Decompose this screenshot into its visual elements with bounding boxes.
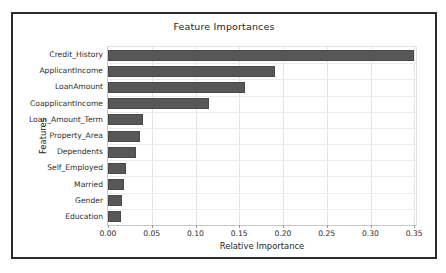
- x-axis-label: Relative Importance: [108, 241, 416, 251]
- bar-row[interactable]: LoanAmount: [108, 79, 416, 95]
- bar-row[interactable]: CoapplicantIncome: [108, 96, 416, 112]
- x-tick-label: 0.00: [100, 225, 117, 238]
- bar[interactable]: [108, 147, 136, 158]
- y-gridline: [108, 193, 416, 194]
- bar[interactable]: [108, 66, 275, 77]
- bar-row[interactable]: ApplicantIncome: [108, 63, 416, 79]
- y-gridline: [108, 209, 416, 210]
- y-tick-label: Loan_Amount_Term: [29, 112, 103, 128]
- bar[interactable]: [108, 195, 122, 206]
- bar[interactable]: [108, 211, 121, 222]
- bar-row[interactable]: Education: [108, 209, 416, 225]
- y-tick-label: CoapplicantIncome: [30, 96, 103, 112]
- plot-area: Relative Importance 0.000.050.100.150.20…: [107, 46, 417, 226]
- x-tick-label: 0.35: [406, 225, 423, 238]
- y-tick-label: Education: [65, 209, 103, 225]
- x-tick-label: 0.30: [362, 225, 379, 238]
- y-tick-label: Credit_History: [49, 47, 103, 63]
- y-tick-label: Gender: [75, 193, 103, 209]
- bar[interactable]: [108, 179, 124, 190]
- y-gridline: [108, 128, 416, 129]
- y-gridline: [108, 160, 416, 161]
- y-tick-label: Self_Employed: [47, 160, 103, 176]
- bar[interactable]: [108, 114, 143, 125]
- y-gridline: [108, 176, 416, 177]
- y-tick-label: LoanAmount: [55, 79, 103, 95]
- y-tick-label: Married: [74, 177, 103, 193]
- bar-row[interactable]: Gender: [108, 193, 416, 209]
- x-tick-label: 0.05: [143, 225, 160, 238]
- y-tick-label: ApplicantIncome: [39, 63, 103, 79]
- bar[interactable]: [108, 98, 209, 109]
- bar-row[interactable]: Dependents: [108, 144, 416, 160]
- x-tick-label: 0.15: [231, 225, 248, 238]
- y-tick-label: Dependents: [57, 144, 103, 160]
- bar-row[interactable]: Property_Area: [108, 128, 416, 144]
- bar[interactable]: [108, 131, 140, 142]
- figure-inner: Feature Importances Features Relative Im…: [13, 14, 435, 257]
- y-gridline: [108, 112, 416, 113]
- y-gridline: [108, 63, 416, 64]
- bar-row[interactable]: Self_Employed: [108, 160, 416, 176]
- y-gridline: [108, 79, 416, 80]
- figure-frame: Feature Importances Features Relative Im…: [11, 12, 437, 259]
- y-gridline: [108, 96, 416, 97]
- y-tick-label: Property_Area: [50, 128, 103, 144]
- chart-title: Feature Importances: [13, 21, 435, 32]
- bar[interactable]: [108, 163, 126, 174]
- bar-row[interactable]: Credit_History: [108, 47, 416, 63]
- x-tick-label: 0.20: [275, 225, 292, 238]
- bar-row[interactable]: Loan_Amount_Term: [108, 112, 416, 128]
- y-gridline: [108, 144, 416, 145]
- bar[interactable]: [108, 50, 414, 61]
- bar[interactable]: [108, 82, 245, 93]
- bar-row[interactable]: Married: [108, 177, 416, 193]
- x-tick-label: 0.10: [187, 225, 204, 238]
- x-tick-label: 0.25: [318, 225, 335, 238]
